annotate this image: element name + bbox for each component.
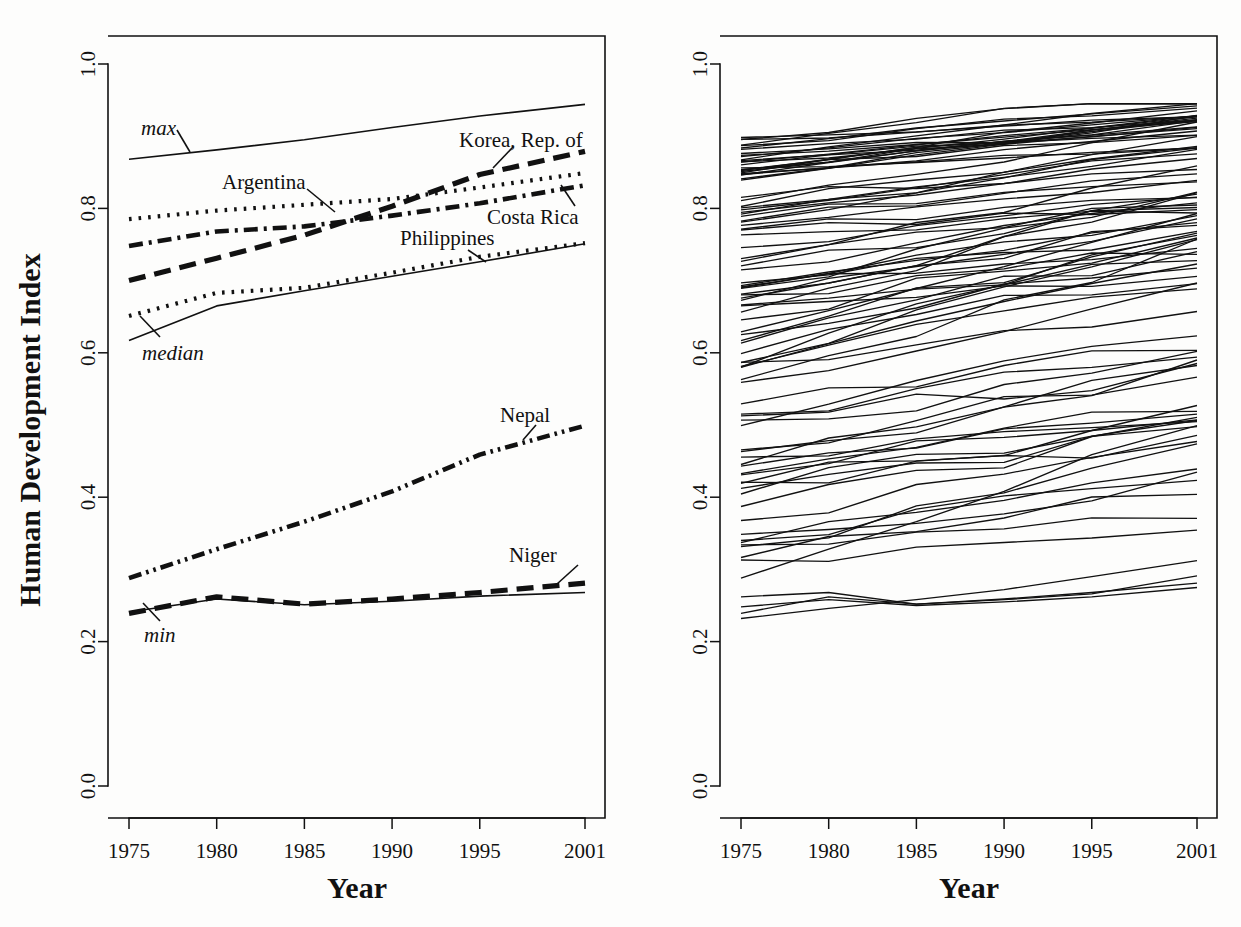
figure-root: Human Development Index 0.00.20.40.60.81…	[0, 0, 1241, 927]
x-tick-label: 1990	[983, 839, 1025, 863]
country-trajectory	[741, 530, 1197, 561]
country-trajectory	[741, 240, 1197, 363]
y-tick-label: 0.2	[688, 628, 712, 654]
y-tick-label: 0.8	[688, 195, 712, 221]
country-trajectory	[741, 211, 1197, 235]
country-trajectory	[741, 406, 1197, 475]
right-y-axis: 0.00.20.40.60.81.0	[688, 51, 720, 799]
y-tick-label: 0.4	[688, 484, 712, 511]
country-trajectory	[741, 469, 1197, 543]
y-tick-label: 0.6	[688, 340, 712, 366]
country-trajectory	[741, 350, 1197, 404]
country-trajectory	[741, 364, 1197, 416]
right-x-axis-title: Year	[939, 871, 999, 904]
country-trajectory	[741, 283, 1197, 382]
y-tick-label: 1.0	[688, 51, 712, 77]
y-tick-label: 0.0	[688, 773, 712, 799]
x-tick-label: 1985	[895, 839, 937, 863]
x-tick-label: 2001	[1176, 839, 1218, 863]
country-trajectory	[741, 219, 1197, 301]
country-trajectory	[741, 268, 1197, 335]
country-trajectory	[741, 312, 1197, 363]
country-trajectory	[741, 426, 1197, 578]
country-trajectory	[741, 252, 1197, 343]
x-tick-label: 1975	[720, 839, 762, 863]
right-series-group	[741, 104, 1197, 619]
x-tick-label: 1980	[808, 839, 850, 863]
x-tick-label: 1995	[1071, 839, 1113, 863]
right-x-axis: 197519801985199019952001	[720, 818, 1218, 863]
right-panel-chart: 0.00.20.40.60.81.0 197519801985199019952…	[0, 0, 1241, 927]
country-trajectory	[741, 588, 1197, 607]
